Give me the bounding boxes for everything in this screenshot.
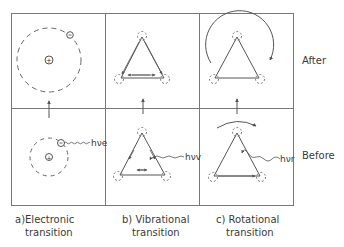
atom-icon	[256, 75, 265, 84]
caption-line2: transition	[122, 226, 189, 239]
rotation-arrow-large	[206, 11, 274, 63]
caption-line1: a)Electronic	[15, 214, 74, 225]
vibrational-before	[114, 128, 185, 181]
svg-text:hνr: hνr	[280, 154, 295, 164]
atom-icon	[162, 172, 171, 181]
transition-diagram: + + hνe hνv	[0, 0, 344, 247]
electronic-after: +	[17, 28, 81, 92]
photon-wave-icon	[242, 150, 280, 161]
caption-line2: transition	[216, 226, 279, 239]
atom-icon	[210, 75, 219, 84]
atom-icon	[161, 75, 170, 84]
atom-icon	[115, 75, 124, 84]
photon-wave-icon	[64, 142, 90, 144]
svg-text:hνv: hνv	[185, 152, 202, 162]
caption-vibrational: b) Vibrational transition	[122, 213, 189, 239]
svg-text:+: +	[46, 57, 52, 65]
caption-rotational: c) Rotational transition	[216, 213, 279, 239]
caption-line1: c) Rotational	[216, 214, 279, 225]
rotation-arrow-small	[217, 121, 256, 128]
atom-icon	[209, 173, 218, 182]
svg-text:+: +	[46, 154, 51, 161]
atom-icon	[257, 173, 266, 182]
grid-frame	[12, 14, 294, 206]
atom-icon	[114, 172, 123, 181]
electronic-before: + hνe	[30, 138, 108, 176]
row-label-after: After	[302, 55, 326, 66]
row-label-before: Before	[302, 150, 335, 161]
rotational-after	[206, 11, 274, 84]
vibrational-after	[115, 32, 170, 84]
caption-electronic: a)Electronic transition	[15, 213, 74, 239]
caption-line2: transition	[15, 226, 74, 239]
caption-line1: b) Vibrational	[122, 214, 189, 225]
rotational-before	[209, 121, 281, 181]
svg-text:hνe: hνe	[91, 138, 108, 148]
